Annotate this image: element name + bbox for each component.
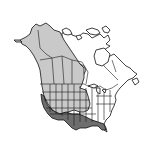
range-map bbox=[0, 0, 155, 147]
arctic-island-3 bbox=[102, 26, 110, 33]
alaska-peninsula bbox=[14, 40, 22, 42]
north-america-map bbox=[0, 0, 155, 147]
newfoundland bbox=[132, 78, 139, 85]
